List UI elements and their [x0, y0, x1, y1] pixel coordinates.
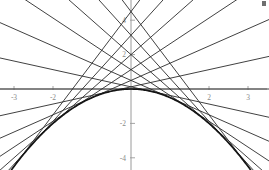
x-tick-label: -2	[50, 93, 56, 102]
plot-figure: -3-22342-2-4	[0, 0, 269, 170]
tangent-line	[0, 20, 269, 139]
tangent-line	[0, 0, 269, 170]
x-tick-label: 2	[207, 93, 211, 102]
tangent-line	[0, 0, 269, 161]
corner-artifact	[262, 1, 266, 6]
x-tick-label: -3	[11, 93, 17, 102]
tangent-line	[0, 0, 269, 170]
tangent-line	[0, 0, 269, 170]
y-tick-label: -2	[120, 119, 126, 128]
x-tick-label: 3	[246, 93, 250, 102]
tangent-line	[0, 0, 269, 170]
y-tick-label: -4	[120, 154, 126, 163]
tangent-line-group	[0, 0, 269, 170]
tangent-line	[0, 0, 269, 170]
tangent-line	[0, 56, 269, 115]
y-tick-label: 2	[122, 50, 126, 59]
tangent-line	[0, 0, 269, 170]
tangent-line	[0, 0, 269, 156]
plot-canvas: -3-22342-2-4	[0, 0, 269, 170]
